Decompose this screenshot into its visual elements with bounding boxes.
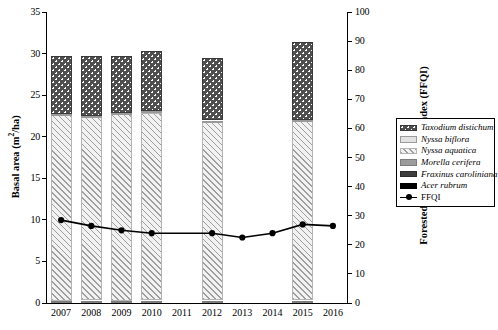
legend-swatch-light-hatch-icon [400, 148, 417, 155]
legend-label: Nyssa aquatica [421, 146, 476, 155]
legend-item: Taxodium distichum [400, 122, 492, 134]
legend-label: Morella cerifera [421, 158, 480, 167]
legend-swatch-dark-dotted-icon [400, 125, 417, 132]
ffqi-marker [149, 230, 155, 236]
ffqi-polyline [61, 220, 333, 237]
ffqi-markers [58, 217, 336, 241]
ffqi-marker [300, 221, 306, 227]
ffqi-marker [209, 230, 215, 236]
ffqi-marker [269, 230, 275, 236]
legend-label: Taxodium distichum [421, 123, 493, 132]
legend-item: Nyssa biflora [400, 134, 492, 146]
ffqi-marker [239, 234, 245, 240]
legend-item: Fraxinus caroliniana [400, 168, 492, 180]
legend-swatch-dark-gray-icon [400, 171, 417, 178]
legend-swatch-light-solid-icon [400, 136, 417, 143]
chart-figure: Basal area (m2/ha) Forested Floristic Qu… [0, 0, 498, 330]
legend-swatch-line-marker-icon [400, 194, 417, 201]
ffqi-marker [118, 227, 124, 233]
legend-item: Morella cerifera [400, 157, 492, 169]
legend-swatch-black-icon [400, 183, 417, 190]
legend-label: Acer rubrum [421, 181, 467, 190]
legend-item: FFQI [400, 192, 492, 204]
legend-swatch-gray-solid-icon [400, 159, 417, 166]
legend-item: Nyssa aquatica [400, 145, 492, 157]
ffqi-marker [330, 223, 336, 229]
chart-legend: Taxodium distichumNyssa bifloraNyssa aqu… [396, 118, 495, 207]
ffqi-marker [88, 223, 94, 229]
legend-label: Fraxinus caroliniana [421, 170, 497, 179]
legend-label: FFQI [421, 193, 441, 202]
legend-item: Acer rubrum [400, 180, 492, 192]
legend-label: Nyssa biflora [421, 135, 469, 144]
ffqi-marker [58, 217, 64, 223]
